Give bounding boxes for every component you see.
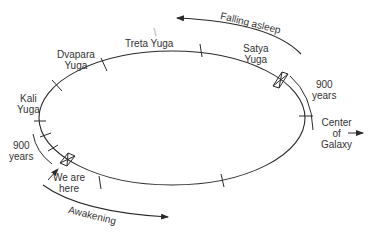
satya-yuga-label: Satya Yuga [243, 43, 269, 65]
yuga-cycle-diagram [0, 0, 375, 233]
center-line3: Galaxy [321, 139, 352, 150]
satya-diamond-marker [273, 72, 288, 88]
left-900-years-label: 900 years [9, 140, 33, 162]
center-line2: of [321, 128, 352, 139]
kali-line2: Yuga [17, 104, 40, 115]
left-900-line1: 900 [9, 140, 33, 151]
treta-yuga-label: Treta Yuga [125, 38, 173, 49]
orbit-ellipse [39, 51, 305, 185]
left-900-line2: years [9, 151, 33, 162]
faint-scan-mark [154, 28, 156, 36]
current-position-diamond-marker [60, 153, 75, 166]
right-900-line1: 900 [312, 79, 336, 90]
we-are-here-line2: here [53, 183, 85, 194]
dvapara-line2: Yuga [57, 60, 95, 71]
satya-line2: Yuga [243, 54, 269, 65]
left-900-years-arc [33, 134, 52, 164]
dvapara-line1: Dvapara [57, 49, 95, 60]
we-are-here-line1: We are [53, 172, 85, 183]
dvapara-yuga-label: Dvapara Yuga [57, 49, 95, 71]
we-are-here-label: We are here [53, 172, 85, 194]
right-900-line2: years [312, 90, 336, 101]
kali-yuga-label: Kali Yuga [17, 93, 40, 115]
treta-yuga-text: Treta Yuga [125, 38, 173, 49]
kali-line1: Kali [17, 93, 40, 104]
satya-line1: Satya [243, 43, 269, 54]
center-line1: Center [321, 117, 352, 128]
center-of-galaxy-label: Center of Galaxy [321, 117, 352, 150]
right-900-years-label: 900 years [312, 79, 336, 101]
